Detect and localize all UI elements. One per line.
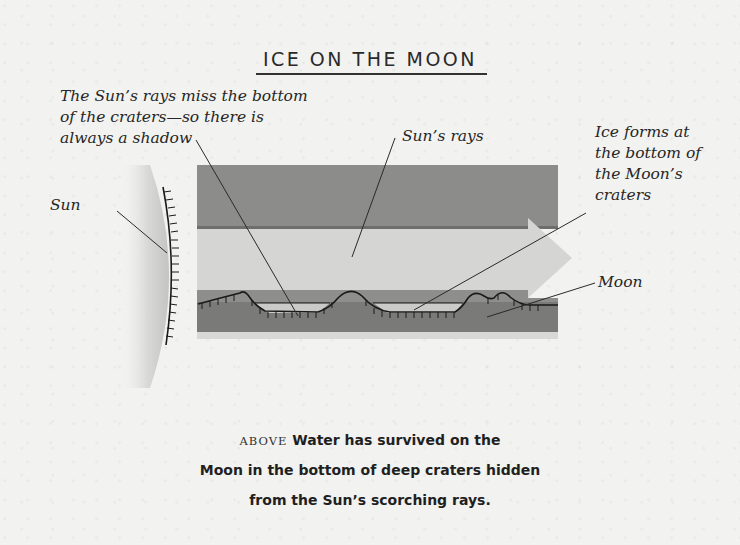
caption-prefix: ABOVE: [239, 434, 287, 448]
label-line: always a shadow: [60, 128, 308, 149]
label-sun: Sun: [50, 195, 81, 216]
label-line: Ice forms at: [595, 122, 701, 143]
suns-rays-arrow: [197, 218, 572, 298]
label-moon: Moon: [598, 272, 643, 293]
caption-text-1: Water has survived on the: [292, 432, 500, 448]
bottom-light-strip: [197, 332, 558, 339]
label-shadow-note: The Sun’s rays miss the bottom of the cr…: [60, 86, 308, 149]
caption-line-3: from the Sun’s scorching rays.: [0, 492, 740, 508]
caption-line-1: ABOVE Water has survived on the: [0, 432, 740, 448]
label-line: the Moon’s: [595, 164, 701, 185]
upper-band-edge: [197, 226, 558, 229]
upper-dark-band: [197, 165, 558, 227]
label-line: of the craters—so there is: [60, 107, 308, 128]
moon-surface-band: [197, 302, 558, 332]
sun-body: [120, 165, 169, 388]
label-ice-note: Ice forms at the bottom of the Moon’s cr…: [595, 122, 701, 206]
label-line: The Sun’s rays miss the bottom: [60, 86, 308, 107]
label-suns-rays: Sun’s rays: [402, 126, 484, 147]
label-line: craters: [595, 185, 701, 206]
caption-line-2: Moon in the bottom of deep craters hidde…: [0, 462, 740, 478]
label-line: the bottom of: [595, 143, 701, 164]
